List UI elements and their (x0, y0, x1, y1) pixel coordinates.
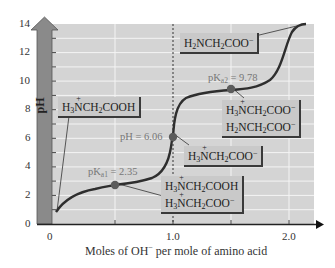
y-tick-4: 4 (25, 159, 31, 171)
pka1-annotation: pKa1 = 2.35 (88, 166, 137, 179)
x-tick-2: 2.0 (282, 230, 296, 242)
species-label-fully-deprotonated: H2NCH2COO− (180, 33, 259, 54)
isoelectric-point (169, 133, 177, 141)
y-tick-8: 8 (25, 102, 31, 114)
species-label-zwitterion: H3NCH2COO− (184, 146, 263, 167)
y-tick-12: 12 (19, 45, 30, 57)
pka2-point (227, 85, 235, 93)
species-label-pka1-mixture: H3NCH2COOH H3NCH2COO− (161, 176, 244, 214)
pka1-point (111, 181, 119, 189)
x-axis-arrowhead (316, 220, 324, 229)
species-label-pka2-mixture: H3NCH2COO− H2NCH2COO− (222, 100, 301, 138)
isoelectric-annotation: pH = 6.06 (120, 131, 162, 142)
x-tick-1: 1.0 (166, 230, 180, 242)
y-tick-2: 2 (25, 188, 31, 200)
y-axis-label: pH (33, 97, 48, 113)
x-tick-0: 0 (47, 230, 53, 242)
y-tick-14: 14 (19, 17, 30, 29)
y-tick-10: 10 (19, 74, 30, 86)
species-label-fully-protonated: H3NCH2COOH (58, 97, 141, 118)
y-tick-0: 0 (25, 217, 31, 229)
x-axis-label: Moles of OH− per mole of amino acid (85, 243, 267, 259)
pka2-annotation: pKa2 = 9.78 (208, 72, 257, 85)
y-tick-6: 6 (25, 131, 31, 143)
